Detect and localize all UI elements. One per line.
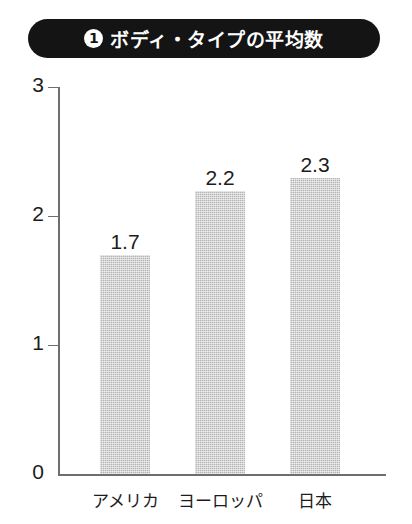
y-tick-mark-2 bbox=[48, 216, 58, 217]
bar-chart: 3 2 1 0 1.7 アメリカ 2.2 ヨーロッパ 2.3 日本 bbox=[0, 0, 412, 524]
y-tick-mark-1 bbox=[48, 345, 58, 346]
y-axis-line bbox=[58, 87, 60, 476]
y-tick-mark-3 bbox=[48, 87, 58, 88]
x-axis-line bbox=[58, 474, 386, 476]
y-tick-label-2: 2 bbox=[4, 202, 44, 226]
y-tick-label-0: 0 bbox=[4, 460, 44, 484]
bar-japan[interactable] bbox=[290, 178, 340, 474]
y-tick-label-3: 3 bbox=[4, 73, 44, 97]
y-tick-label-1: 1 bbox=[4, 331, 44, 355]
bar-america[interactable] bbox=[100, 255, 150, 474]
bar-europe[interactable] bbox=[195, 191, 245, 474]
bar-value-japan: 2.3 bbox=[275, 153, 355, 177]
x-label-japan: 日本 bbox=[255, 487, 375, 512]
bar-value-america: 1.7 bbox=[85, 230, 165, 254]
bar-value-europe: 2.2 bbox=[180, 166, 260, 190]
